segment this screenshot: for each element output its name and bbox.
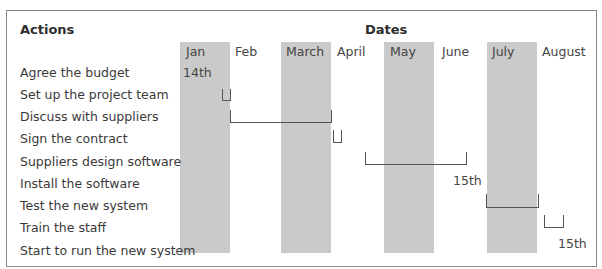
month-label-april: April: [337, 44, 366, 59]
month-label-march: March: [286, 44, 324, 59]
action-agree-budget: Agree the budget: [20, 65, 130, 80]
action-discuss-suppliers: Discuss with suppliers: [20, 109, 159, 124]
action-install-software: Install the software: [20, 176, 140, 191]
month-shade-march: [281, 42, 331, 253]
month-label-jan: Jan: [186, 44, 205, 59]
note-start-run-15th: 15th: [558, 236, 587, 251]
action-suppliers-design: Suppliers design software: [20, 154, 181, 169]
bar-discuss-suppliers: [230, 110, 332, 123]
action-start-run: Start to run the new system: [20, 243, 195, 258]
month-shade-july: [487, 42, 537, 253]
actions-heading: Actions: [20, 22, 74, 37]
action-set-up-team: Set up the project team: [20, 87, 169, 102]
month-label-june: June: [442, 44, 469, 59]
bar-set-up-team: [222, 89, 231, 101]
month-label-feb: Feb: [235, 44, 257, 59]
month-shade-may: [384, 42, 434, 253]
bar-suppliers-design: [365, 152, 467, 165]
action-train-staff: Train the staff: [20, 220, 106, 235]
note-install-15th: 15th: [453, 173, 482, 188]
action-sign-contract: Sign the contract: [20, 131, 128, 146]
month-label-august: August: [542, 44, 586, 59]
bar-train-staff: [544, 215, 564, 228]
month-label-july: July: [492, 44, 514, 59]
bar-test-system: [486, 194, 539, 208]
month-label-may: May: [390, 44, 416, 59]
dates-heading: Dates: [365, 22, 407, 37]
note-budget-14th: 14th: [183, 65, 212, 80]
bar-sign-contract: [333, 130, 342, 143]
action-test-system: Test the new system: [20, 198, 148, 213]
